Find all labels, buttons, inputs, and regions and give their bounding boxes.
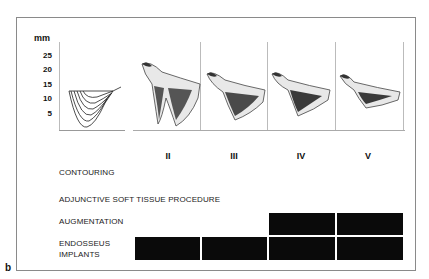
bar-augmentation-iv <box>269 213 335 235</box>
y-tick: 15 <box>38 80 52 89</box>
x-axis <box>59 130 125 131</box>
stage-label-iv: IV <box>281 151 321 161</box>
bar-implants-ii <box>135 237 200 260</box>
bar-implants-iv <box>269 237 335 260</box>
row-label-implants-line2: IMPLANTS <box>59 249 110 260</box>
stage-divider <box>267 42 268 131</box>
row-label-soft-tissue: ADJUNCTIVE SOFT TISSUE PROCEDURE <box>59 194 220 205</box>
y-axis <box>59 42 60 131</box>
bone-section-stage-v-icon <box>338 72 402 112</box>
y-tick: 10 <box>38 94 52 103</box>
y-tick: 20 <box>38 65 52 74</box>
panel-label: b <box>5 262 11 273</box>
row-label-augmentation: AUGMENTATION <box>59 216 123 227</box>
row-label-implants: ENDOSSEUS IMPLANTS <box>59 238 110 260</box>
bar-implants-iii <box>202 237 267 260</box>
stage-divider <box>403 42 404 131</box>
bar-augmentation-v <box>337 213 403 235</box>
stage-label-ii: II <box>148 151 188 161</box>
bone-section-stage-ii-icon <box>140 58 202 128</box>
row-label-implants-line1: ENDOSSEUS <box>59 238 110 249</box>
axis-unit: mm <box>34 33 50 43</box>
stage-label-v: V <box>348 151 388 161</box>
ridge-contours-icon <box>65 85 125 130</box>
y-tick: 25 <box>38 51 52 60</box>
bone-section-stage-iv-icon <box>270 70 332 120</box>
bar-implants-v <box>337 237 403 260</box>
stage-label-iii: III <box>214 151 254 161</box>
y-tick: 5 <box>38 109 52 118</box>
row-label-contouring: CONTOURING <box>59 167 115 178</box>
stage-divider <box>335 42 336 131</box>
bone-section-stage-iii-icon <box>205 68 267 123</box>
stage-baseline <box>133 130 405 131</box>
